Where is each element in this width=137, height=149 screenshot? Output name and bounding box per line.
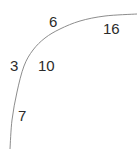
data-label-10: 10: [38, 58, 55, 73]
data-label-3: 3: [10, 58, 18, 73]
data-label-16: 16: [103, 21, 120, 36]
curve-figure: 6 16 3 10 7: [0, 0, 137, 149]
data-label-6: 6: [49, 14, 57, 29]
data-label-7: 7: [18, 108, 26, 123]
